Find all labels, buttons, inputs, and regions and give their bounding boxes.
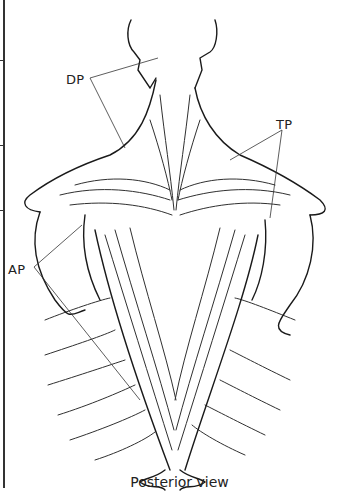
label-ap: AP [8, 262, 25, 277]
trapezius-illustration [0, 0, 347, 495]
figure-caption: Posterior view [0, 474, 347, 490]
label-dp: DP [66, 72, 84, 87]
label-tp: TP [276, 117, 292, 132]
